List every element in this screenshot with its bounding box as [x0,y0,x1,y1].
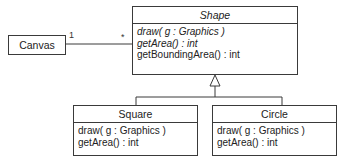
class-name: Canvas [9,36,65,54]
operations-list: draw( g : Graphics ) getArea() : int [74,123,197,150]
operation: draw( g : Graphics ) [217,125,332,137]
operation: getBoundingArea() : int [137,49,293,61]
operation: getArea() : int [217,137,332,149]
operation: getArea() : int [137,38,293,50]
class-canvas[interactable]: Canvas [8,35,66,55]
multiplicity-canvas-end: 1 [69,30,74,40]
class-name: Shape [133,7,297,24]
class-name: Square [74,106,197,123]
operation: getArea() : int [78,137,193,149]
generalization-arrowhead-icon [210,75,220,86]
operations-list: draw( g : Graphics ) getArea() : int get… [133,24,297,63]
multiplicity-shape-end: * [121,32,125,42]
class-shape[interactable]: Shape draw( g : Graphics ) getArea() : i… [132,6,298,75]
class-circle[interactable]: Circle draw( g : Graphics ) getArea() : … [212,105,337,156]
operations-list: draw( g : Graphics ) getArea() : int [213,123,336,150]
class-square[interactable]: Square draw( g : Graphics ) getArea() : … [73,105,198,156]
operation: draw( g : Graphics ) [78,125,193,137]
class-name: Circle [213,106,336,123]
operation: draw( g : Graphics ) [137,26,293,38]
